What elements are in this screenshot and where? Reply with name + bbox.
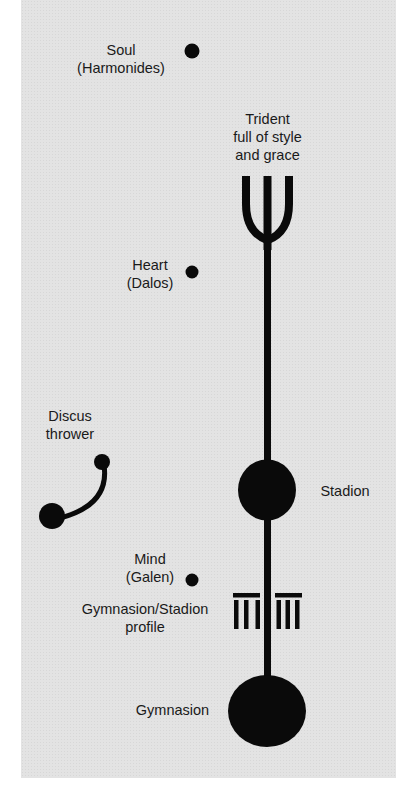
stadion-circle-icon bbox=[238, 460, 296, 521]
gymnasion-label: Gymnasion bbox=[125, 701, 220, 719]
discus-thrower-label: Discus thrower bbox=[30, 407, 110, 443]
profile-label: Gymnasion/Stadion profile bbox=[70, 600, 220, 636]
axis-line bbox=[264, 176, 271, 716]
mind-dot-icon bbox=[186, 574, 199, 587]
diagram-artwork bbox=[0, 0, 409, 789]
heart-dot-icon bbox=[186, 266, 199, 279]
soul-dot-icon bbox=[185, 44, 200, 59]
discus-thrower-icon bbox=[39, 454, 110, 529]
stadion-label: Stadion bbox=[310, 482, 380, 500]
gymnasion-circle-icon bbox=[228, 675, 306, 747]
trident-icon bbox=[246, 176, 289, 250]
trident-label: Trident full of style and grace bbox=[210, 110, 325, 164]
soul-label: Soul (Harmonides) bbox=[56, 41, 186, 77]
heart-label: Heart (Dalos) bbox=[115, 256, 185, 292]
mind-label: Mind (Galen) bbox=[115, 550, 185, 586]
